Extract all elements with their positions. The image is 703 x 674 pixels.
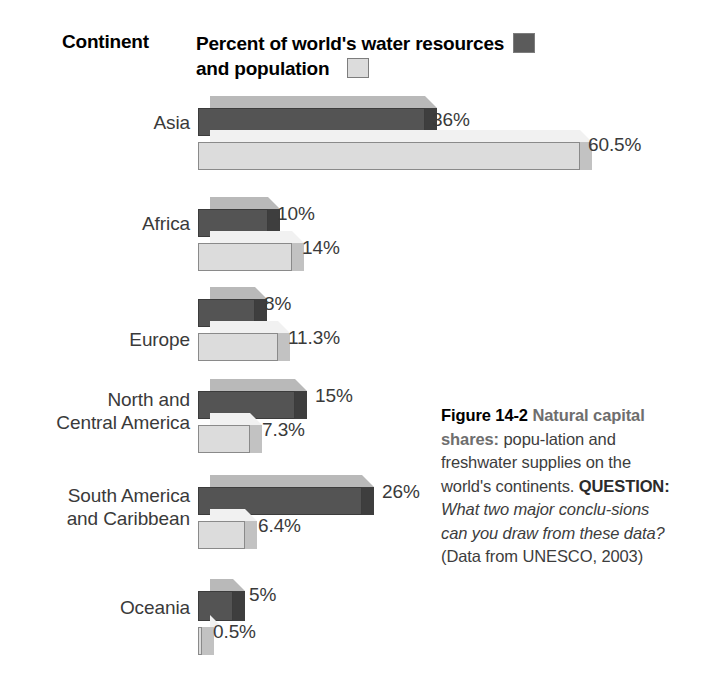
bar-top-face [210,197,280,209]
bar-front-face [198,425,250,453]
bar-top-face [210,475,374,487]
chart-row-asia: Asia 36% 60.5% [0,88,703,176]
category-label-africa: Africa [142,212,190,235]
bar-south-america-population [198,521,245,549]
bar-top-face [210,579,245,591]
bar-front-face [198,142,580,170]
bar-side-face [245,521,257,549]
caption-question-text: What two major conclu-sions can you draw… [441,500,665,542]
value-label-south-america-population: 6.4% [258,515,301,537]
value-label-europe-water: 8% [264,293,291,315]
bar-north-america-population [198,425,250,453]
value-label-south-america-water: 26% [382,481,420,503]
category-label-south-america: South America and Caribbean [67,484,190,530]
legend-label-water: Percent of world's water resources [196,33,504,54]
category-label-asia: Asia [153,111,190,134]
bar-top-face [210,231,304,243]
bar-chart: Asia 36% 60.5% Africa 10% [0,78,703,668]
figure-canvas: Continent Percent of world's water resou… [0,0,703,674]
value-label-asia-water: 36% [432,109,470,131]
bar-africa-population [198,243,292,271]
bar-front-face [198,521,245,549]
legend-row-water: Percent of world's water resources [196,31,616,56]
category-label-north-america: North and Central America [56,388,190,434]
water-resources-swatch [513,33,535,53]
value-label-africa-water: 10% [277,203,315,225]
chart-row-oceania: Oceania 5% 0.5% [0,561,703,653]
bar-side-face [295,391,307,419]
value-label-asia-population: 60.5% [588,134,641,156]
bar-front-face [198,243,292,271]
caption-source: (Data from UNESCO, 2003) [441,547,643,565]
legend-label-population: and population [196,58,329,79]
chart-row-africa: Africa 10% 14% [0,188,703,276]
population-swatch [347,58,369,78]
value-label-oceania-water: 5% [249,584,276,606]
bar-top-face [210,96,437,108]
bar-top-face [210,321,290,333]
value-label-north-america-water: 15% [315,385,353,407]
bar-top-face [210,287,267,299]
bar-top-face [210,379,307,391]
bar-top-face [210,509,257,521]
bar-top-face [210,130,592,142]
figure-caption: Figure 14-2 Natural capital shares: popu… [441,404,679,569]
value-label-north-america-population: 7.3% [262,419,305,441]
figure-number: Figure 14-2 [441,406,528,424]
column-header-continent: Continent [62,31,149,53]
caption-question-label: QUESTION: [579,477,670,495]
value-label-europe-population: 11.3% [288,327,340,349]
category-label-europe: Europe [129,328,190,351]
bar-side-face [250,425,262,453]
chart-row-europe: Europe 8% 11.3% [0,278,703,366]
legend: Percent of world's water resources and p… [196,31,616,81]
category-label-oceania: Oceania [120,596,190,619]
bar-europe-population [198,333,278,361]
bar-side-face [362,487,374,515]
bar-oceania-population [198,627,202,655]
bar-asia-population [198,142,580,170]
bar-side-face [233,591,245,621]
bar-top-face [210,413,262,425]
value-label-africa-population: 14% [302,237,340,259]
value-label-oceania-population: 0.5% [213,621,256,643]
bar-front-face [198,333,278,361]
